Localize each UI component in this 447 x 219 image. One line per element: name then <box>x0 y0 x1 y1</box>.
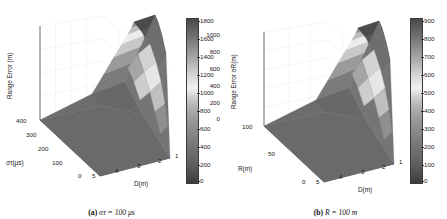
colorbar-tick: 100 <box>424 162 434 168</box>
axes-3d-a: 400 300 200 100 0 στ(μs) 5 4 3 2 1 D(m) <box>30 10 180 180</box>
axes-3d-b: 100 50 0 R(m) 5 4 3 2 1 D(m) <box>254 10 404 180</box>
z-tick: 1000 <box>206 32 220 38</box>
z-tick: 200 <box>210 100 220 106</box>
x-tick: 1 <box>399 159 402 165</box>
x-tick: 2 <box>158 158 161 164</box>
x-axis-label-a: D(m) <box>134 180 148 187</box>
colorbar-tick: 600 <box>424 72 434 78</box>
colorbar-tick: 800 <box>424 36 434 42</box>
caption-tag-b: (b) <box>314 208 323 217</box>
x-tick: 1 <box>175 153 178 159</box>
colorbar-tick: 200 <box>424 144 434 150</box>
plot-area-b: 1000 800 600 400 200 0 Range Error σR(m) <box>224 4 410 192</box>
colorbar-tick: 400 <box>424 108 434 114</box>
y-tick: 100 <box>52 160 62 166</box>
caption-text-a: σᴛ = 100 μs <box>99 208 135 217</box>
x-tick: 3 <box>137 163 140 169</box>
y-axis-label-b: R(m) <box>238 165 252 172</box>
y-tick: 100 <box>242 124 252 130</box>
z-tick: 600 <box>210 66 220 72</box>
colorbar-tick: 0 <box>424 178 427 184</box>
y-tick: 400 <box>16 118 26 124</box>
colorbar-tick: 700 <box>424 54 434 60</box>
z-tick: 800 <box>210 49 220 55</box>
colorbar-tick: 900 <box>424 18 434 24</box>
y-tick: 0 <box>78 173 81 179</box>
y-tick: 200 <box>38 146 48 152</box>
colorbar-ticks-b: 900 800 700 600 500 400 300 200 100 0 <box>421 18 447 182</box>
x-tick: 2 <box>382 164 385 170</box>
y-axis-label-a: στ(μs) <box>6 159 24 166</box>
plot-area-a: 2000 1500 1000 500 0 Range Error (m) <box>0 4 186 192</box>
x-tick: 4 <box>339 174 342 180</box>
x-tick: 5 <box>316 179 319 185</box>
z-axis-label-b: Range Error σR(m) <box>230 54 237 109</box>
x-axis-label-b: D(m) <box>358 186 372 193</box>
y-tick: 300 <box>26 132 36 138</box>
figure-3d-surface-pair: 2000 1500 1000 500 0 Range Error (m) <box>0 0 447 219</box>
surface-mesh-b <box>254 10 404 180</box>
z-tick: 0 <box>217 116 220 122</box>
z-tick: 400 <box>210 83 220 89</box>
x-tick: 5 <box>92 173 95 179</box>
panel-b: 1000 800 600 400 200 0 Range Error σR(m) <box>224 0 447 219</box>
colorbar-tick: 500 <box>424 90 434 96</box>
caption-a: (a) σᴛ = 100 μs <box>0 208 223 217</box>
z-axis-label-a: Range Error (m) <box>6 53 13 99</box>
y-tick: 0 <box>302 179 305 185</box>
surface-mesh-a <box>30 10 180 180</box>
caption-b: (b) R = 100 m <box>224 208 447 217</box>
y-tick: 50 <box>268 151 275 157</box>
z-axis-ticks-b: 1000 800 600 400 200 0 <box>190 4 224 192</box>
caption-text-b: R = 100 m <box>325 208 357 217</box>
caption-tag-a: (a) <box>88 208 97 217</box>
colorbar-tick: 300 <box>424 126 434 132</box>
x-tick: 3 <box>361 169 364 175</box>
x-tick: 4 <box>115 168 118 174</box>
